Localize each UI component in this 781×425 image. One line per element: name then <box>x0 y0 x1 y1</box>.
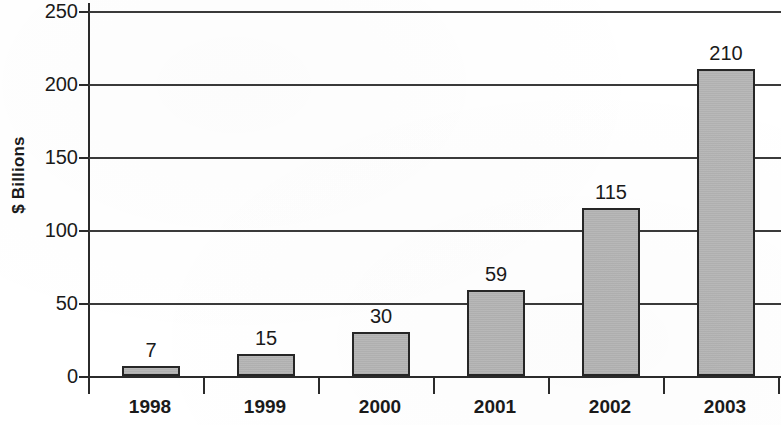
x-tick-mark-1 <box>203 377 205 394</box>
bar-value-1998: 7 <box>101 340 201 360</box>
x-tick-mark-6 <box>778 377 780 394</box>
bar-2001 <box>467 290 525 376</box>
x-axis-label-2000: 2000 <box>325 397 435 416</box>
x-axis-label-2001: 2001 <box>440 397 550 416</box>
x-tick-mark-0 <box>88 377 90 394</box>
bar-chart: $ Billions 250 200 150 100 50 0 7 <box>0 0 781 425</box>
bar-value-2002: 115 <box>561 182 661 202</box>
y-axis-tick-labels: 250 200 150 100 50 0 <box>20 0 78 425</box>
y-tick-label-0: 0 <box>20 366 78 386</box>
x-tick-mark-3 <box>433 377 435 394</box>
bar-2003 <box>697 69 755 376</box>
gridline-100 <box>88 230 781 232</box>
x-axis-label-1999: 1999 <box>210 397 320 416</box>
y-tick-label-200: 200 <box>20 74 78 94</box>
x-axis-label-2002: 2002 <box>555 397 665 416</box>
y-tick-mark-150 <box>79 157 89 159</box>
bar-2000 <box>352 332 410 376</box>
bar-1998 <box>122 366 180 376</box>
bar-value-2001: 59 <box>446 264 546 284</box>
y-tick-mark-100 <box>79 230 89 232</box>
bar-2002 <box>582 208 640 376</box>
bar-value-1999: 15 <box>216 328 316 348</box>
bar-1999 <box>237 354 295 376</box>
plot-area: 7 15 30 59 115 210 <box>88 11 781 376</box>
x-axis-label-1998: 1998 <box>95 397 205 416</box>
x-axis-label-2003: 2003 <box>670 397 780 416</box>
y-tick-mark-50 <box>79 303 89 305</box>
gridline-200 <box>88 84 781 86</box>
bar-value-2000: 30 <box>331 306 431 326</box>
y-tick-mark-250 <box>79 11 89 13</box>
y-tick-label-250: 250 <box>20 1 78 21</box>
x-tick-mark-4 <box>548 377 550 394</box>
x-tick-mark-5 <box>663 377 665 394</box>
y-tick-label-150: 150 <box>20 147 78 167</box>
y-axis-line <box>88 3 90 393</box>
y-tick-label-100: 100 <box>20 220 78 240</box>
x-tick-mark-2 <box>318 377 320 394</box>
bar-value-2003: 210 <box>676 43 776 63</box>
gridline-150 <box>88 157 781 159</box>
gridline-50 <box>88 303 781 305</box>
gridline-250 <box>88 11 781 13</box>
y-tick-mark-200 <box>79 84 89 86</box>
y-tick-label-50: 50 <box>20 293 78 313</box>
